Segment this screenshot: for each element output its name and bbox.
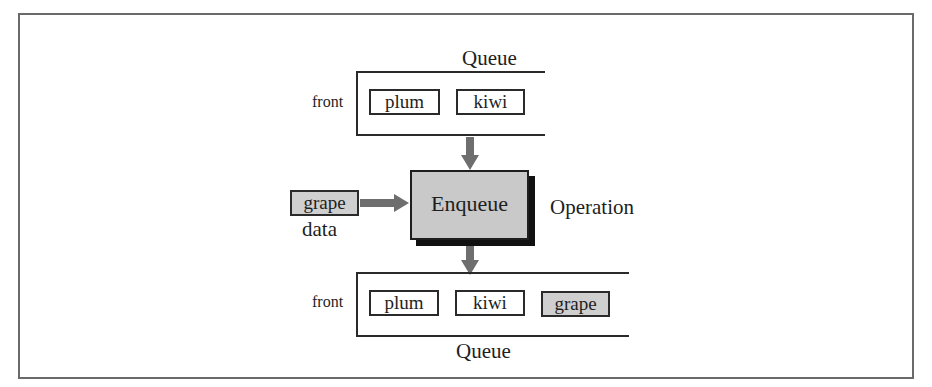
top-queue-item-kiwi: kiwi xyxy=(456,89,525,115)
input-data-box: grape xyxy=(290,190,359,216)
bottom-queue-title: Queue xyxy=(456,341,511,362)
bottom-queue-item-plum: plum xyxy=(369,290,439,316)
bottom-queue-item-kiwi: kiwi xyxy=(455,290,525,316)
top-queue-item-plum: plum xyxy=(369,89,440,115)
input-data-label: data xyxy=(302,219,337,240)
arrow-right-icon xyxy=(360,193,410,213)
operation-label: Operation xyxy=(550,197,634,218)
enqueue-operation-box: Enqueue xyxy=(410,170,529,240)
bottom-queue-front-label: front xyxy=(312,294,343,310)
bottom-queue-item-grape: grape xyxy=(541,291,610,317)
arrow-down-icon xyxy=(460,137,480,171)
top-queue-title: Queue xyxy=(462,48,517,69)
top-queue-front-label: front xyxy=(312,94,343,110)
